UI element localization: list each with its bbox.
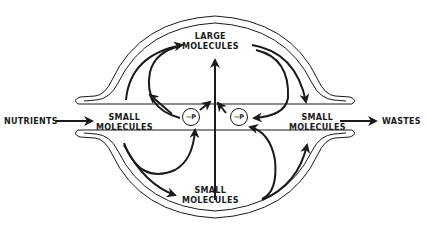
high-energy-phosphate-right-icon: ~P	[230, 108, 248, 126]
large-line1: LARGE	[182, 32, 239, 42]
small-bottom-line2: MOLECULES	[182, 196, 239, 206]
small-bottom-line1: SMALL	[182, 186, 239, 196]
nutrients-text: NUTRIENTS	[4, 117, 58, 127]
atp-right-text: ~P	[234, 113, 244, 121]
atp-left-text: ~P	[186, 113, 196, 121]
label-large-molecules: LARGE MOLECULES	[182, 32, 239, 52]
small-right-line1: SMALL	[289, 113, 346, 123]
small-left-line2: MOLECULES	[96, 123, 153, 133]
large-line2: MOLECULES	[182, 42, 239, 52]
small-right-line2: MOLECULES	[289, 123, 346, 133]
high-energy-phosphate-left-icon: ~P	[182, 108, 200, 126]
label-nutrients: NUTRIENTS	[4, 117, 58, 127]
metabolism-diagram: NUTRIENTS SMALL MOLECULES LARGE MOLECULE…	[0, 0, 427, 234]
label-small-molecules-right: SMALL MOLECULES	[289, 113, 346, 133]
label-small-molecules-bottom: SMALL MOLECULES	[182, 186, 239, 206]
label-wastes: WASTES	[382, 117, 421, 127]
label-small-molecules-left: SMALL MOLECULES	[96, 113, 153, 133]
small-left-line1: SMALL	[96, 113, 153, 123]
wastes-text: WASTES	[382, 117, 421, 127]
